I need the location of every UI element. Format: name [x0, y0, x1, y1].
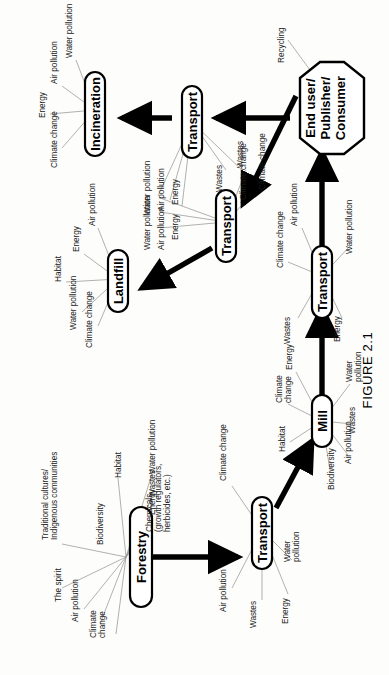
- lifecycle-flow-diagram: Forestry Transport Mill Transport Transp…: [0, 0, 389, 675]
- leaf-label-mill-habitat: Habitat: [278, 425, 287, 452]
- figure-caption: FIGURE 2.1: [360, 332, 375, 409]
- leaf-label-enduser-recycling: Recycling: [277, 27, 286, 63]
- leaf-label-tme-water-pollution: Water pollution: [345, 199, 354, 254]
- leaf-label-mill-energy: Energy: [285, 343, 294, 370]
- leaf-label-mill-wastes: Wastes: [348, 407, 357, 434]
- node-label-landfill: Landfill: [111, 258, 126, 304]
- leaf-label-tme-air-pollution: Air pollution: [290, 183, 299, 226]
- node-label-forestry: Forestry: [134, 530, 149, 583]
- node-label-transport-enduser-waste: Transport: [219, 195, 234, 256]
- leaf-label-twi-energy: Energy: [171, 178, 180, 205]
- leaf-label-twi-air-pollution: Air pollution: [157, 168, 166, 211]
- leaf-label-tfm-air-pollution: Air pollution: [219, 569, 228, 612]
- leaf-label-forestry-biodiversity: Biodiversity: [96, 502, 105, 545]
- leaf-label-landfill-energy: Energy: [72, 225, 81, 252]
- leaf-label-twi-wastes: Wastes: [215, 165, 224, 192]
- leaf-label-forestry-chemicals-l3: herbicides, etc.): [163, 474, 172, 532]
- leaf-label-mill-water-l1: Water: [345, 360, 354, 382]
- leaf-label-twi-climate-change: Climate change: [239, 143, 248, 200]
- leaf-label-forestry-chemicals-l1: Chemicals: [145, 494, 154, 532]
- leaf-label-tew-air-pollution: Air pollution: [157, 207, 166, 250]
- leaf-label-incineration-water-pollution: Water pollution: [65, 3, 74, 58]
- leaf-label-landfill-climate-change: Climate change: [85, 291, 94, 348]
- leaf-label-tfm-water-l1: Water: [283, 540, 292, 562]
- leaf-label-twi-water-pollution: Water pollution: [143, 160, 152, 215]
- node-label-transport-waste-incineration: Transport: [185, 91, 200, 152]
- leaf-label-tfm-energy: Energy: [281, 597, 290, 624]
- leaf-label-incineration-climate-change: Climate change: [50, 111, 59, 168]
- leaf-label-tfm-water-l2: pollution: [292, 531, 301, 562]
- leaf-label-mill-climate-l2: change: [284, 376, 293, 403]
- node-label-transport-mill-enduser: Transport: [315, 251, 330, 312]
- leaf-label-tme-wastes: Wastes: [283, 317, 292, 344]
- leaf-label-forestry-habitat: Habitat: [114, 451, 123, 478]
- node-label-enduser-line1: End user/: [303, 78, 318, 138]
- leaf-label-mill-climate-l1: Climate: [275, 375, 284, 403]
- leaf-label-landfill-habitat: Habitat: [54, 255, 63, 282]
- node-label-transport-forestry-mill: Transport: [255, 502, 270, 563]
- leaf-label-incineration-air-pollution: Air pollution: [50, 41, 59, 84]
- leaf-label-tme-energy: Energy: [333, 315, 342, 342]
- leaf-label-forestry-climate-l1: Climate: [89, 610, 98, 638]
- figure-canvas: Forestry Transport Mill Transport Transp…: [0, 0, 389, 675]
- node-label-enduser-line2: Publisher/: [318, 76, 333, 139]
- leaf-label-tfm-wastes: Wastes: [249, 601, 258, 628]
- leaf-label-landfill-air-pollution: Air pollution: [88, 183, 97, 226]
- arrow-enduser-to-transport-waste: [243, 96, 296, 204]
- leaf-label-landfill-water-pollution: Water pollution: [69, 275, 78, 330]
- node-label-enduser-line3: Consumer: [333, 76, 348, 140]
- arrow-transport-to-landfill: [142, 248, 212, 288]
- leaf-label-tfm-climate-change: Climate change: [219, 424, 228, 481]
- leaf-label-incineration-energy: Energy: [38, 91, 47, 118]
- leaf-label-tew-climate-change: Climate change: [258, 133, 267, 190]
- node-label-mill: Mill: [315, 410, 330, 432]
- leaf-label-mill-biodiversity: Biodiversity: [327, 447, 336, 490]
- leaf-label-forestry-the-spirit: The spirit: [54, 568, 63, 602]
- node-label-incineration: Incineration: [88, 77, 103, 151]
- leaf-label-forestry-air-pollution: Air pollution: [71, 579, 80, 622]
- leaf-label-tme-climate-change: Climate change: [276, 211, 285, 268]
- leaf-label-forestry-traditional-l1: Traditional cultures/: [41, 468, 50, 540]
- node-labels: Forestry Transport Mill Transport Transp…: [88, 76, 348, 583]
- leaf-label-forestry-climate-l2: change: [98, 611, 107, 638]
- leaf-label-forestry-chemicals-l2: (growth regulators,: [154, 464, 163, 532]
- leaf-label-forestry-traditional-l2: Indigenous communities: [50, 452, 59, 540]
- leaf-label-tew-energy: Energy: [171, 213, 180, 240]
